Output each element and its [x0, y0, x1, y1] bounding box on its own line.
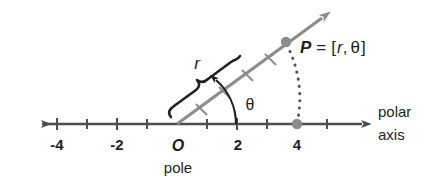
sweep-arc-group [287, 45, 300, 124]
point-P-theta: θ [350, 38, 359, 57]
radius-sweep-arc [287, 45, 300, 124]
point-P-name: P [300, 38, 312, 57]
point-P-label: P=[r,θ] [300, 38, 366, 57]
polar-diagram-svg: -4 -2 O 2 4 pole polar axis r [0, 0, 443, 185]
points-group: P=[r,θ] [281, 37, 366, 129]
radius-label: r [194, 54, 201, 73]
axis-label--4: -4 [50, 136, 64, 153]
axis-label-2: 2 [234, 136, 242, 153]
polar-axis-label-line2: axis [378, 126, 405, 143]
point-P-close-bracket: ] [361, 38, 366, 57]
point-P-equals: = [316, 38, 326, 57]
axis-label-4: 4 [293, 136, 302, 153]
point-P-open-bracket: [ [331, 38, 336, 57]
axis-label--2: -2 [110, 136, 123, 153]
point-P-comma: , [343, 38, 348, 57]
axis-label-origin: O [172, 137, 185, 154]
polar-coordinate-figure: -4 -2 O 2 4 pole polar axis r [0, 0, 443, 185]
theta-label: θ [246, 96, 255, 113]
point-P-marker [281, 37, 291, 47]
angle-arc-group: θ [216, 80, 255, 124]
polar-axis-label-line1: polar [378, 103, 411, 120]
pole-label: pole [164, 159, 192, 176]
polar-axis-group: -4 -2 O 2 4 pole polar axis [42, 103, 411, 176]
ray-tick-marks [196, 54, 276, 115]
point-on-axis-marker [292, 119, 302, 129]
